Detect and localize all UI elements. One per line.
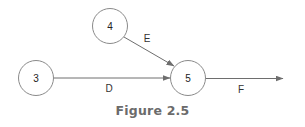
edge-f: F [206, 79, 284, 95]
edge-d-label: D [105, 83, 112, 94]
node-5-label: 5 [185, 73, 191, 84]
node-3: 3 [19, 61, 54, 96]
edge-f-label: F [238, 84, 244, 95]
figure-caption: Figure 2.5 [0, 103, 305, 118]
node-5: 5 [171, 61, 206, 96]
node-4-label: 4 [107, 21, 113, 32]
edge-d: D [54, 78, 171, 94]
node-3-label: 3 [33, 73, 39, 84]
edge-e-label: E [144, 33, 151, 44]
edge-e: E [124, 33, 174, 67]
node-4: 4 [93, 9, 128, 44]
